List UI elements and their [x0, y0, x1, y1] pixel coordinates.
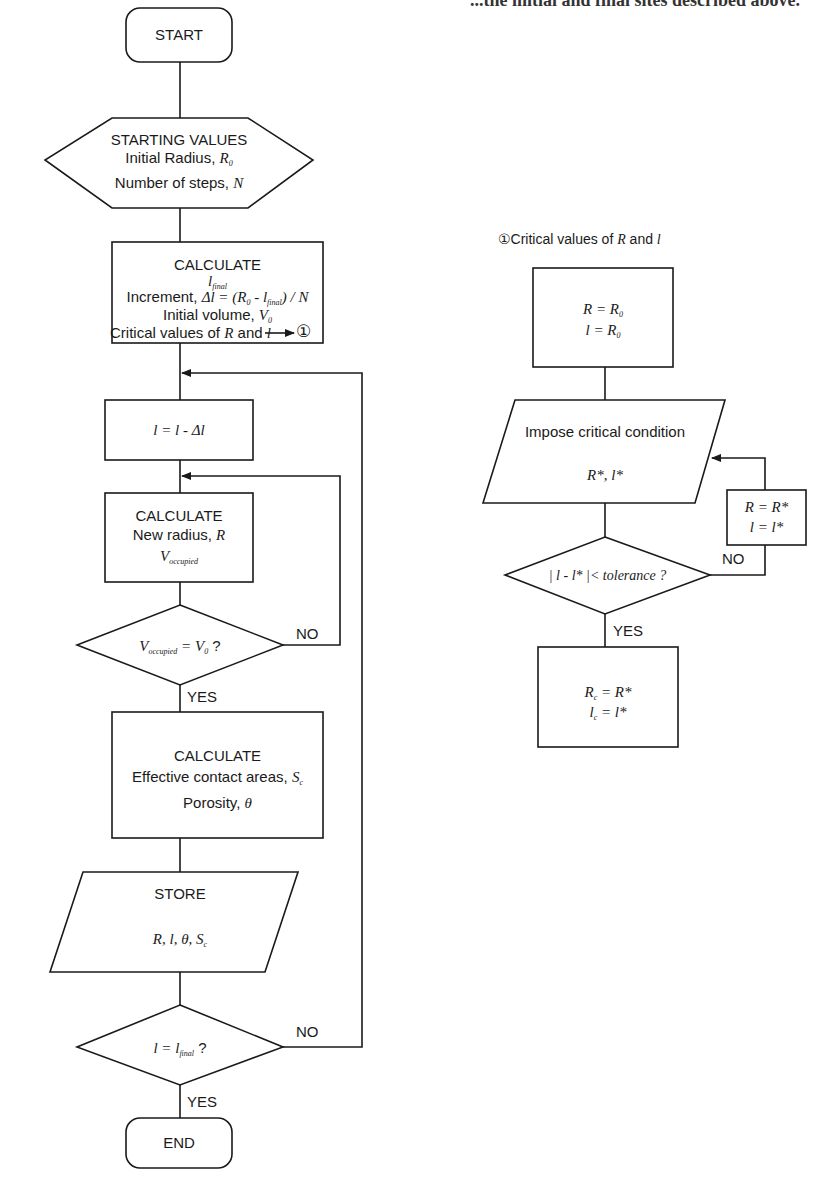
final-decision-label: l = lfinal ? — [77, 1039, 283, 1063]
start-label: START — [126, 26, 232, 44]
tolerance-yes-label: YES — [613, 622, 643, 639]
tolerance-no-label: NO — [722, 550, 745, 567]
circle-one-ref[interactable]: ① — [296, 323, 311, 341]
impose-condition-parallelogram — [483, 400, 725, 503]
store-vars: R, l, θ, Sc — [70, 930, 290, 954]
new-radius-line: New radius, R — [105, 526, 253, 544]
porosity-line: Porosity, θ — [112, 794, 323, 812]
volume-decision-label: Voccupied = V0 ? — [77, 637, 283, 661]
starting-values-title: STARTING VALUES — [45, 131, 313, 149]
impose-vars: R*, l* — [490, 466, 720, 484]
update-r-line: R = R* — [727, 498, 806, 516]
end-label: END — [126, 1134, 232, 1152]
store-title: STORE — [70, 885, 290, 903]
volume-no-label: NO — [296, 625, 319, 642]
final-no-label: NO — [296, 1023, 319, 1040]
subflow-title: ①Critical values of R and l — [498, 230, 661, 249]
impose-title: Impose critical condition — [490, 423, 720, 441]
initial-radius-line: Initial Radius, R0 — [45, 149, 313, 173]
result-l-line: lc = l* — [538, 703, 678, 727]
calculate3-title: CALCULATE — [112, 747, 323, 765]
contact-areas-line: Effective contact areas, Sc — [100, 768, 335, 792]
v-occupied-line: Voccupied — [105, 547, 253, 571]
volume-yes-label: YES — [187, 688, 217, 705]
update-l-line: l = l* — [727, 518, 806, 536]
final-yes-label: YES — [187, 1093, 217, 1110]
number-of-steps-line: Number of steps, N — [45, 174, 313, 192]
critical-values-line: Critical values of R and l — [110, 324, 271, 342]
tolerance-decision-label: | l - l* |< tolerance ? — [505, 566, 710, 585]
decrement-label: l = l - Δl — [105, 421, 253, 439]
init-l-line: l = R0 — [533, 321, 673, 345]
calculate2-title: CALCULATE — [105, 507, 253, 525]
